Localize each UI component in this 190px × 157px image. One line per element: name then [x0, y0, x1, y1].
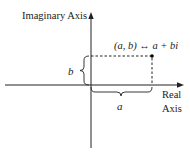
point-label: (a, b) ↔ a + bi: [114, 41, 178, 52]
imaginary-axis-label: Imaginary Axis: [22, 11, 87, 22]
real-axis-arrow-icon: [177, 82, 184, 87]
complex-plane-diagram: Imaginary Axis (a, b) ↔ a + bi b a Real …: [0, 0, 190, 157]
real-axis-label-line1: Real: [162, 90, 181, 101]
a-brace-icon: [91, 87, 152, 96]
b-label: b: [68, 66, 74, 77]
real-axis-label-line2: Axis: [162, 104, 182, 115]
point-marker-icon: [150, 54, 154, 58]
real-axis: [5, 82, 184, 87]
imaginary-axis-arrow-icon: [88, 12, 93, 19]
imaginary-axis: [88, 12, 93, 148]
a-label: a: [117, 101, 123, 112]
projection-lines: [91, 56, 152, 85]
diagram-canvas: [0, 0, 190, 157]
b-brace-icon: [80, 56, 89, 85]
